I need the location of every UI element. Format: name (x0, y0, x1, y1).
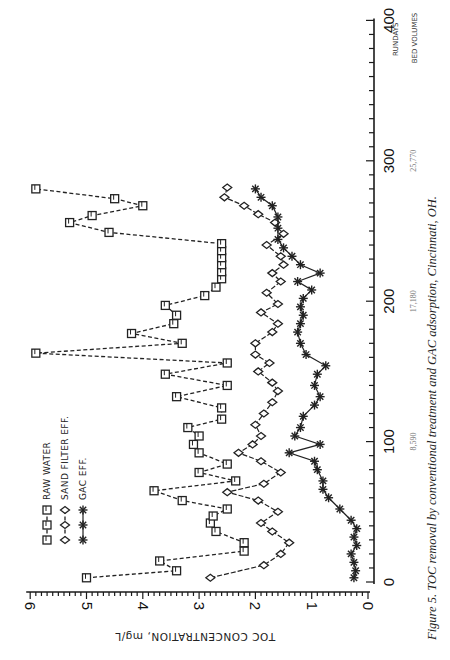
star-marker-icon (310, 401, 319, 410)
diamond-marker-icon (257, 432, 266, 439)
star-marker-icon (296, 423, 305, 432)
square-marker-icon (150, 487, 158, 495)
star-marker-icon (296, 302, 305, 311)
star-marker-icon (349, 573, 358, 582)
star-marker-icon (268, 201, 277, 210)
star-marker-icon (352, 541, 361, 550)
star-marker-icon (296, 260, 305, 269)
diamond-marker-icon (220, 194, 229, 201)
star-marker-icon (349, 533, 358, 542)
star-marker-icon (347, 549, 356, 558)
square-marker-icon (83, 574, 91, 582)
square-marker-icon (195, 449, 203, 457)
star-marker-icon (313, 465, 322, 474)
y-axis-title: TOC CONCENTRATION, mg/L (115, 631, 276, 643)
chart-axes: 012345601002003004008,59017,18025,770 (22, 8, 418, 610)
square-marker-icon (195, 468, 203, 476)
star-marker-icon (321, 361, 330, 370)
diamond-marker-icon (262, 242, 271, 249)
square-marker-icon (240, 539, 248, 547)
star-marker-icon (257, 193, 266, 202)
square-marker-icon (66, 219, 74, 227)
toc-tick-label: 1 (304, 602, 321, 610)
star-marker-icon (335, 504, 344, 513)
diamond-marker-icon (273, 320, 282, 327)
square-marker-icon (189, 440, 197, 448)
star-marker-icon (273, 235, 282, 244)
toc-tick-label: 3 (191, 602, 208, 610)
star-marker-icon (302, 350, 311, 359)
bed-volume-label: 8,590 (409, 433, 418, 451)
star-marker-icon (293, 328, 302, 337)
star-marker-icon (290, 431, 299, 440)
star-marker-icon (351, 566, 360, 575)
toc-tick-label: 6 (22, 602, 39, 610)
legend-label: GAC EFF. (78, 457, 88, 500)
star-marker-icon (307, 285, 316, 294)
star-marker-icon (296, 319, 305, 328)
legend-item: RAW WATER (42, 442, 52, 544)
square-marker-icon (111, 195, 119, 203)
star-marker-icon (347, 516, 356, 525)
star-marker-icon (313, 370, 322, 379)
days-tick-label: 0 (380, 578, 397, 586)
legend-label: SAND FILTER EFF. (60, 416, 70, 500)
days-tick-label: 300 (380, 148, 397, 173)
square-marker-icon (223, 381, 231, 389)
square-marker-icon (43, 536, 51, 544)
star-marker-icon (324, 493, 333, 502)
legend-item: SAND FILTER EFF. (60, 416, 70, 544)
diamond-marker-icon (259, 410, 268, 417)
toc-tick-label: 4 (135, 602, 152, 610)
star-marker-icon (316, 440, 325, 449)
star-marker-icon (279, 243, 288, 252)
square-marker-icon (105, 228, 113, 236)
diamond-marker-icon (61, 507, 70, 514)
square-marker-icon (173, 311, 181, 319)
chart-legend: RAW WATERSAND FILTER EFF.GAC EFF. (42, 416, 88, 545)
square-marker-icon (184, 424, 192, 432)
star-marker-icon (310, 381, 319, 390)
diamond-marker-icon (206, 574, 215, 581)
square-marker-icon (156, 557, 164, 565)
toc-tick-label: 0 (360, 602, 377, 610)
square-marker-icon (232, 477, 240, 485)
diamond-marker-icon (251, 421, 260, 428)
square-marker-icon (223, 505, 231, 513)
x-axis-title: RUNDAYS (392, 22, 400, 56)
star-marker-icon (316, 392, 325, 401)
diamond-marker-icon (268, 379, 277, 386)
square-marker-icon (195, 432, 203, 440)
days-tick-label: 200 (380, 289, 397, 314)
star-marker-icon (251, 184, 260, 193)
square-marker-icon (178, 497, 186, 505)
legend-label: RAW WATER (42, 442, 52, 500)
toc-tick-label: 2 (247, 602, 264, 610)
star-marker-icon (318, 476, 327, 485)
square-marker-icon (161, 370, 169, 378)
diamond-marker-icon (251, 351, 260, 358)
star-marker-icon (352, 524, 361, 533)
square-marker-icon (128, 329, 136, 337)
diamond-marker-icon (279, 261, 288, 268)
square-marker-icon (218, 240, 226, 248)
toc-removal-chart: 012345601002003004008,59017,18025,770 RA… (0, 0, 450, 660)
bed-volume-label: 17,180 (409, 290, 418, 312)
star-marker-icon (293, 277, 302, 286)
square-marker-icon (178, 339, 186, 347)
square-marker-icon (43, 506, 51, 514)
square-marker-icon (223, 359, 231, 367)
toc-tick-label: 5 (79, 602, 96, 610)
bed-volume-label: 25,770 (409, 150, 418, 172)
days-tick-label: 100 (380, 429, 397, 454)
square-marker-icon (88, 212, 96, 220)
star-marker-icon (285, 448, 294, 457)
square-marker-icon (161, 301, 169, 309)
square-marker-icon (32, 185, 40, 193)
square-marker-icon (173, 567, 181, 575)
square-marker-icon (43, 521, 51, 529)
star-marker-icon (316, 269, 325, 278)
square-marker-icon (212, 283, 220, 291)
square-marker-icon (32, 349, 40, 357)
star-marker-icon (79, 536, 88, 545)
